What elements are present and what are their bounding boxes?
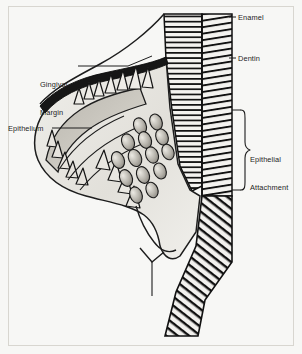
dentin-layer [202,14,232,196]
label-epithelium: Epithelium [8,124,44,133]
label-dentin: Dentin [238,54,260,63]
label-gingival-margin-line1: Gingival [40,80,68,89]
label-gingival-margin-line2: Margin [40,108,68,117]
label-enamel: Enamel [238,13,264,22]
anatomical-diagram-figure: Enamel Dentin Gingival Margin Epithelium… [0,0,302,354]
label-epithelial-attachment-line1: Epithelial [250,155,288,164]
label-epithelial-attachment-line2: Attachment [250,183,288,192]
label-gingival-margin: Gingival Margin [40,62,68,136]
label-epithelial-attachment: Epithelial Attachment [250,137,288,211]
brace-icon [232,110,250,190]
